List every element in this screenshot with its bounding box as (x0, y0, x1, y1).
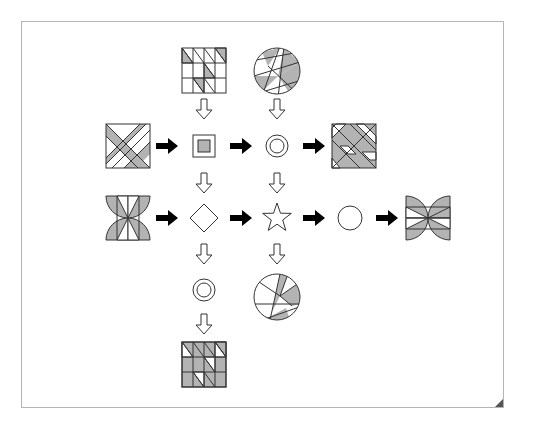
bottom-double-circle-figure (193, 279, 215, 301)
circle-figure (338, 206, 362, 230)
right-square-figure (332, 124, 376, 168)
square-in-square-figure (193, 135, 215, 157)
left-square-figure (106, 124, 150, 168)
right-arrow-icon (230, 210, 252, 226)
right-arrow-icon (303, 210, 325, 226)
bottom-grid-figure (182, 342, 226, 387)
left-hourglass-figure (106, 196, 150, 240)
down-arrow-icon (269, 244, 285, 264)
down-arrow-icon (196, 244, 212, 264)
right-bowtie-figure (406, 196, 450, 240)
star-figure (263, 203, 292, 230)
diamond-figure (190, 204, 218, 232)
top-circle-figure (254, 46, 302, 98)
right-arrow-icon (156, 138, 178, 154)
down-arrow-icon (196, 173, 212, 193)
down-arrow-icon (196, 99, 212, 119)
right-arrow-icon (156, 210, 178, 226)
bottom-circle-figure (254, 274, 302, 320)
down-arrow-icon (269, 173, 285, 193)
right-arrow-icon (230, 138, 252, 154)
down-arrow-icon (269, 99, 285, 119)
right-arrow-icon (376, 210, 398, 226)
right-arrow-icon (303, 138, 325, 154)
puzzle-diagram (0, 0, 554, 428)
double-circle-figure (266, 135, 288, 157)
top-grid-figure (182, 48, 226, 93)
down-arrow-icon (196, 314, 212, 334)
